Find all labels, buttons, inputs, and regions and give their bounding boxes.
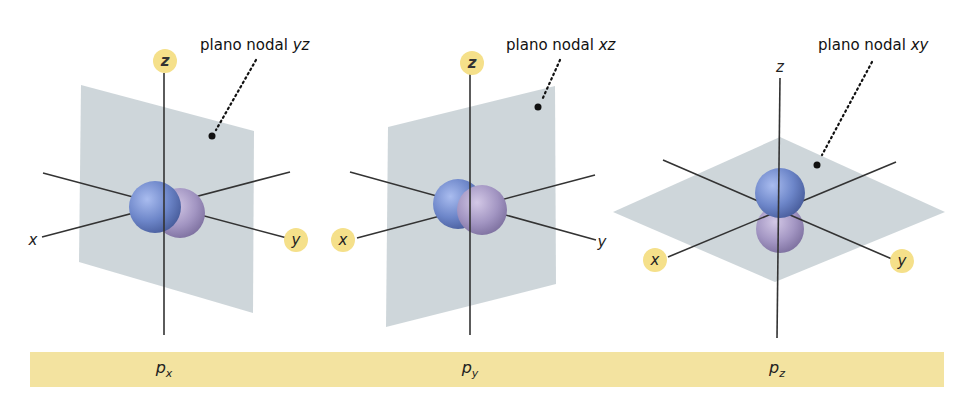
pointer-dot (814, 162, 821, 169)
caption-pz: pz (769, 358, 785, 380)
x-axis-label: x (338, 231, 348, 249)
z-axis-label: z (160, 52, 170, 70)
nodal-plane-pointer (216, 60, 256, 130)
y-axis-label: y (897, 252, 908, 270)
caption-py: py (462, 358, 479, 380)
p-orbitals-figure: z x y plano nodal yz z x y plano nodal x… (0, 0, 979, 407)
y-axis-label: y (291, 231, 302, 249)
caption-px: px (156, 358, 173, 380)
z-axis-label: z (467, 54, 477, 72)
lobe-positive (457, 185, 507, 235)
pointer-dot (209, 133, 216, 140)
lobe-negative (129, 181, 181, 233)
pointer-dot (535, 104, 542, 111)
z-axis-label: z (775, 58, 785, 76)
lobe-upper (755, 168, 805, 218)
x-axis-label: x (650, 251, 660, 269)
nodal-plane-pointer (822, 62, 872, 155)
x-axis-label: x (28, 231, 38, 249)
nodal-plane-label-xy: plano nodal xy (818, 36, 928, 54)
nodal-plane-label-yz: plano nodal yz (200, 36, 309, 54)
